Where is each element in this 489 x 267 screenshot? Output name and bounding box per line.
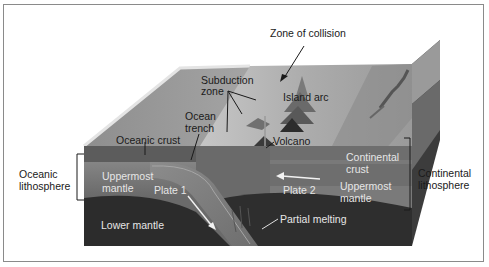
- uppermost-mantle-left-label-line2: mantle: [102, 182, 134, 194]
- ocean-trench-label-line1: Ocean: [185, 110, 216, 122]
- uppermost-mantle-right-label-line2: mantle: [340, 192, 372, 204]
- partial-melting-label: Partial melting: [280, 213, 347, 225]
- continental-crust-label-line2: crust: [346, 163, 369, 175]
- oceanic-lithosphere-bracket: [77, 154, 84, 200]
- subduction-block-diagram: [0, 0, 489, 267]
- oceanic-crust-label: Oceanic crust: [116, 134, 180, 146]
- plate-2-label: Plate 2: [283, 184, 316, 196]
- lower-mantle-label: Lower mantle: [101, 219, 164, 231]
- uppermost-mantle-right-label-line1: Uppermost: [340, 180, 391, 192]
- oceanic-lithosphere-label-line1: Oceanic: [19, 168, 58, 180]
- volcano-label: Volcano: [273, 135, 310, 147]
- continental-lithosphere-label-line2: lithosphere: [418, 179, 469, 191]
- continental-lithosphere-label-line1: Continental: [418, 167, 471, 179]
- zone-of-collision-label: Zone of collision: [270, 27, 346, 39]
- continental-crust-label-line1: Continental: [346, 151, 399, 163]
- block-side-face: [412, 40, 440, 246]
- plate-1-label: Plate 1: [154, 184, 187, 196]
- island-arc-label: Island arc: [283, 91, 329, 103]
- ocean-trench-label-line2: trench: [185, 122, 214, 134]
- oceanic-lithosphere-label-line2: lithosphere: [19, 180, 70, 192]
- subduction-zone-label-line2: zone: [201, 85, 224, 97]
- uppermost-mantle-left-label-line1: Uppermost: [102, 170, 153, 182]
